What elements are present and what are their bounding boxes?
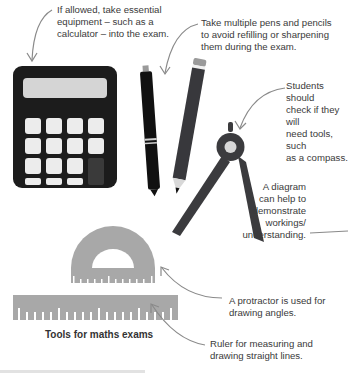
pen-icon [139,65,160,197]
note-line: demonstrate [243,205,306,217]
note-line: Take multiple pens and pencils [201,17,332,29]
note-line: Ruler for measuring and [210,338,313,350]
note-calculator: If allowed, take essential equipment – s… [57,4,169,40]
note-line: them during the exam. [201,41,332,53]
note-line: need tools, such [286,128,350,152]
arrow-calculator [32,10,52,60]
note-compass: Students should check if they will need … [286,80,350,164]
arrow-diagram [310,231,348,233]
note-line: A diagram [243,181,306,193]
protractor-icon [71,226,155,283]
note-line: check if they will [286,104,350,128]
note-pens: Take multiple pens and pencils to avoid … [201,17,332,53]
note-line: as a compass. [286,152,350,164]
figure-caption: Tools for maths exams [45,329,153,340]
note-line: understanding. [243,229,306,241]
note-line: drawing straight lines. [210,350,313,362]
note-ruler: Ruler for measuring and drawing straight… [210,338,313,362]
note-line: workings/ [243,217,306,229]
note-line: equipment – such as a [57,16,169,28]
note-protractor: A protractor is used for drawing angles. [229,295,326,319]
note-line: calculator – into the exam. [57,28,169,40]
note-line: If allowed, take essential [57,4,169,16]
note-line: to avoid refilling or sharpening [201,29,332,41]
note-line: Students should [286,80,350,104]
note-line: drawing angles. [229,307,326,319]
arrow-protractor [162,268,222,298]
calculator-icon [13,66,117,188]
note-diagram: A diagram can help to demonstrate workin… [243,181,306,241]
note-line: A protractor is used for [229,295,326,307]
arrow-compass [240,88,285,128]
pencil-icon [170,58,207,195]
note-line: can help to [243,193,306,205]
